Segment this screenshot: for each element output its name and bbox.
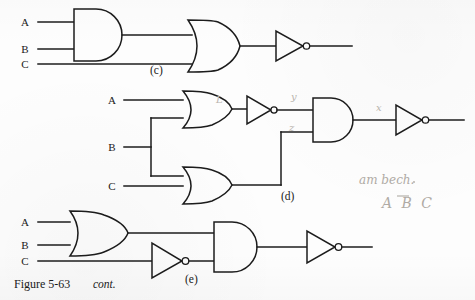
- input-label-d-b: B: [108, 141, 115, 153]
- inverter-bubble-e-mid: [182, 258, 189, 265]
- wire-label-y: y: [290, 91, 297, 102]
- logic-diagram-figure: A B C (c): [0, 0, 475, 300]
- and-gate-c: [74, 9, 122, 61]
- wire-label-x: x: [376, 102, 382, 113]
- input-label-d-c: C: [108, 180, 115, 192]
- inverter-e-mid: [152, 243, 182, 278]
- or-gate-d-top: [183, 91, 232, 128]
- figure-caption-cont: cont.: [93, 278, 116, 290]
- input-label-e-b: B: [21, 239, 28, 251]
- part-label-e: (e): [185, 273, 198, 286]
- part-c-circuit: [38, 9, 352, 72]
- handwritten-note-period: [413, 181, 415, 183]
- input-label-c-c: C: [21, 58, 28, 70]
- input-label-c-a: A: [21, 16, 29, 28]
- part-label-d: (d): [281, 190, 295, 203]
- and-gate-d: [313, 98, 353, 142]
- inverter-bubble-d-mid: [271, 107, 277, 113]
- part-d-circuit: [124, 91, 464, 204]
- inverter-d-mid: [247, 96, 271, 124]
- part-label-c: (c): [150, 64, 163, 77]
- or-gate-c: [188, 20, 240, 72]
- logic-circuit-svg: A B C (c): [0, 0, 475, 300]
- input-label-e-a: A: [21, 216, 29, 228]
- inverter-c: [276, 31, 303, 61]
- and-gate-e: [214, 222, 257, 272]
- handwritten-notes-group: am bech. A B C: [359, 173, 435, 211]
- or-gate-d-bottom: [183, 167, 232, 204]
- input-label-e-c: C: [21, 255, 28, 267]
- part-e-circuit: [38, 211, 372, 278]
- input-label-d-a: A: [108, 94, 116, 106]
- inverter-bubble-e-out: [335, 244, 342, 251]
- inverter-e-out: [307, 231, 335, 263]
- inverter-bubble-c: [303, 43, 309, 49]
- figure-caption-number: Figure 5-63: [14, 277, 70, 291]
- inverter-bubble-d-out: [422, 117, 428, 123]
- or-gate-e: [70, 211, 128, 256]
- handwritten-note-expression: A B C: [380, 195, 435, 211]
- input-label-c-b: B: [21, 43, 28, 55]
- wire-label-L: L: [215, 94, 223, 105]
- wire-label-z: z: [288, 122, 295, 133]
- handwritten-note-phrase: am bech.: [359, 173, 414, 187]
- inverter-d-out: [396, 105, 422, 135]
